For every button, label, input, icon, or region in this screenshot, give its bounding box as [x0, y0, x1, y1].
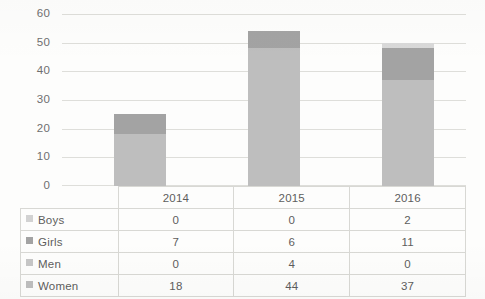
- data-table: 2014 2015 2016 Boys 0 0 2 Girls 7 6 11: [20, 186, 466, 297]
- legend-swatch-boys-icon: [26, 215, 33, 222]
- bar-segment-women-2015: [248, 60, 300, 186]
- plot-area: [62, 14, 466, 186]
- table-row-women: Women 18 44 37: [21, 275, 466, 297]
- table-rowlabel-women-text: Women: [38, 280, 78, 292]
- y-axis-tick-40: 40: [0, 66, 50, 78]
- table-cell-women-2016: 37: [350, 275, 466, 297]
- table-rowlabel-boys: Boys: [21, 209, 119, 231]
- bar-segment-boys-2016: [382, 43, 434, 49]
- table-rowlabel-girls: Girls: [21, 231, 119, 253]
- bar-segment-girls-2016: [382, 48, 434, 80]
- gridline-60: [62, 14, 466, 15]
- table-row-boys: Boys 0 0 2: [21, 209, 466, 231]
- y-axis-tick-50: 50: [0, 37, 50, 49]
- table-rowlabel-men: Men: [21, 253, 119, 275]
- bar-segment-women-2016: [382, 80, 434, 186]
- bar-segment-men-2015: [248, 48, 300, 59]
- table-rowlabel-boys-text: Boys: [38, 214, 64, 226]
- table-row-girls: Girls 7 6 11: [21, 231, 466, 253]
- table-cell-boys-2014: 0: [118, 209, 234, 231]
- table-cell-men-2014: 0: [118, 253, 234, 275]
- bar-segment-girls-2014: [114, 114, 166, 134]
- y-axis-tick-20: 20: [0, 123, 50, 135]
- table-header-2015: 2015: [234, 187, 350, 209]
- table-cell-men-2015: 4: [234, 253, 350, 275]
- y-axis-tick-10: 10: [0, 152, 50, 164]
- table-cell-boys-2016: 2: [350, 209, 466, 231]
- table-cell-women-2014: 18: [118, 275, 234, 297]
- table-cell-girls-2014: 7: [118, 231, 234, 253]
- table-header-2016: 2016: [350, 187, 466, 209]
- table-rowlabel-women: Women: [21, 275, 119, 297]
- legend-swatch-women-icon: [26, 281, 33, 288]
- stacked-bar-chart-with-data-table: 60 50 40 30 20 10 0 2014 2015 2016: [0, 0, 485, 299]
- y-axis: 60 50 40 30 20 10 0: [0, 14, 58, 186]
- table-cell-boys-2015: 0: [234, 209, 350, 231]
- table-rowlabel-girls-text: Girls: [38, 236, 63, 248]
- y-axis-tick-30: 30: [0, 94, 50, 106]
- table-row-headers: 2014 2015 2016: [21, 187, 466, 209]
- legend-swatch-men-icon: [26, 259, 33, 266]
- table-cell-girls-2015: 6: [234, 231, 350, 253]
- table-header-2014: 2014: [118, 187, 234, 209]
- table-cell-women-2015: 44: [234, 275, 350, 297]
- legend-swatch-girls-icon: [26, 237, 33, 244]
- table-cell-girls-2016: 11: [350, 231, 466, 253]
- table-row-men: Men 0 4 0: [21, 253, 466, 275]
- table-corner-cell: [21, 187, 119, 209]
- table-rowlabel-men-text: Men: [38, 258, 61, 270]
- table-cell-men-2016: 0: [350, 253, 466, 275]
- bar-segment-women-2014: [114, 134, 166, 186]
- bar-segment-girls-2015: [248, 31, 300, 48]
- y-axis-tick-60: 60: [0, 8, 50, 20]
